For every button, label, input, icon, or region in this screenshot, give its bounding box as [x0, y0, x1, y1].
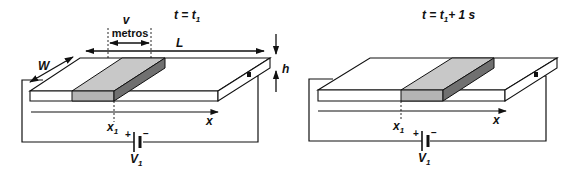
battery-minus-label: − — [431, 127, 437, 138]
x-axis-label: x — [492, 113, 501, 127]
voltage-label: V1 — [130, 152, 143, 168]
voltage-label: V1 — [418, 151, 431, 167]
left-panel: t = t1 v metros L W h x1 x + − V1 — [22, 8, 289, 168]
battery-plus-label: + — [125, 129, 131, 140]
x-axis-label: x — [205, 114, 214, 128]
charge-motion-diagram: t = t1 v metros L W h x1 x + − V1 t = t1… — [0, 0, 569, 175]
width-label: W — [38, 59, 51, 73]
charge-bar-front — [72, 91, 114, 101]
height-label: h — [282, 62, 289, 76]
battery-minus-label: − — [143, 128, 149, 139]
position-label: x1 — [106, 120, 119, 136]
battery-plus-label: + — [413, 128, 419, 139]
velocity-unit-label: metros — [112, 27, 149, 39]
charge-bar-front — [401, 90, 443, 101]
position-label: x1 — [392, 119, 405, 135]
contact-pad — [534, 72, 538, 77]
length-label: L — [176, 36, 183, 50]
contact-pad — [247, 72, 251, 77]
time-label: t = t1+ 1 s — [422, 8, 475, 24]
velocity-label: v — [123, 13, 131, 27]
right-panel: t = t1+ 1 s x1 x + − V1 — [309, 8, 557, 167]
time-label: t = t1 — [174, 8, 201, 24]
